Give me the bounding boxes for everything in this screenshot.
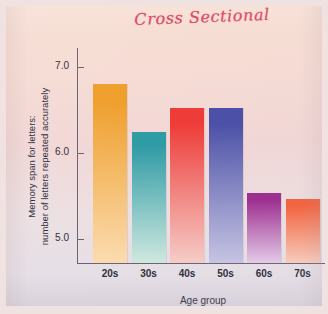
bar-20s [93,84,127,263]
y-axis-tick-label: 5.0 [55,232,69,243]
y-axis-title-line1: Memory span for letters: [26,115,37,217]
y-axis-tick-mark [77,153,84,154]
bar-40s [170,108,204,263]
y-axis-line [77,48,78,264]
handwritten-title-annotation: Cross Sectional [134,3,315,29]
plot-area: 5.06.07.0 20s30s40s50s60s70s [77,36,327,264]
x-axis-title: Age group [78,295,328,306]
scanned-figure-page: Cross Sectional Memory span for letters:… [0,0,328,314]
x-axis-tick-label-70s: 70s [279,268,327,279]
paper-background: Cross Sectional Memory span for letters:… [6,6,322,306]
y-axis-tick-mark [77,239,84,240]
y-axis-tick-label: 6.0 [55,146,69,157]
bar-60s [247,193,281,263]
x-axis-line [77,263,325,264]
y-axis-tick-label: 7.0 [55,60,69,71]
bar-30s [132,132,166,263]
bar-50s [209,108,243,263]
y-axis-title: Memory span for letters: number of lette… [26,62,51,272]
y-axis-title-line2: number of letters repeated accurately [38,62,51,272]
y-axis-tick-mark [77,67,84,68]
bar-70s [286,199,320,263]
